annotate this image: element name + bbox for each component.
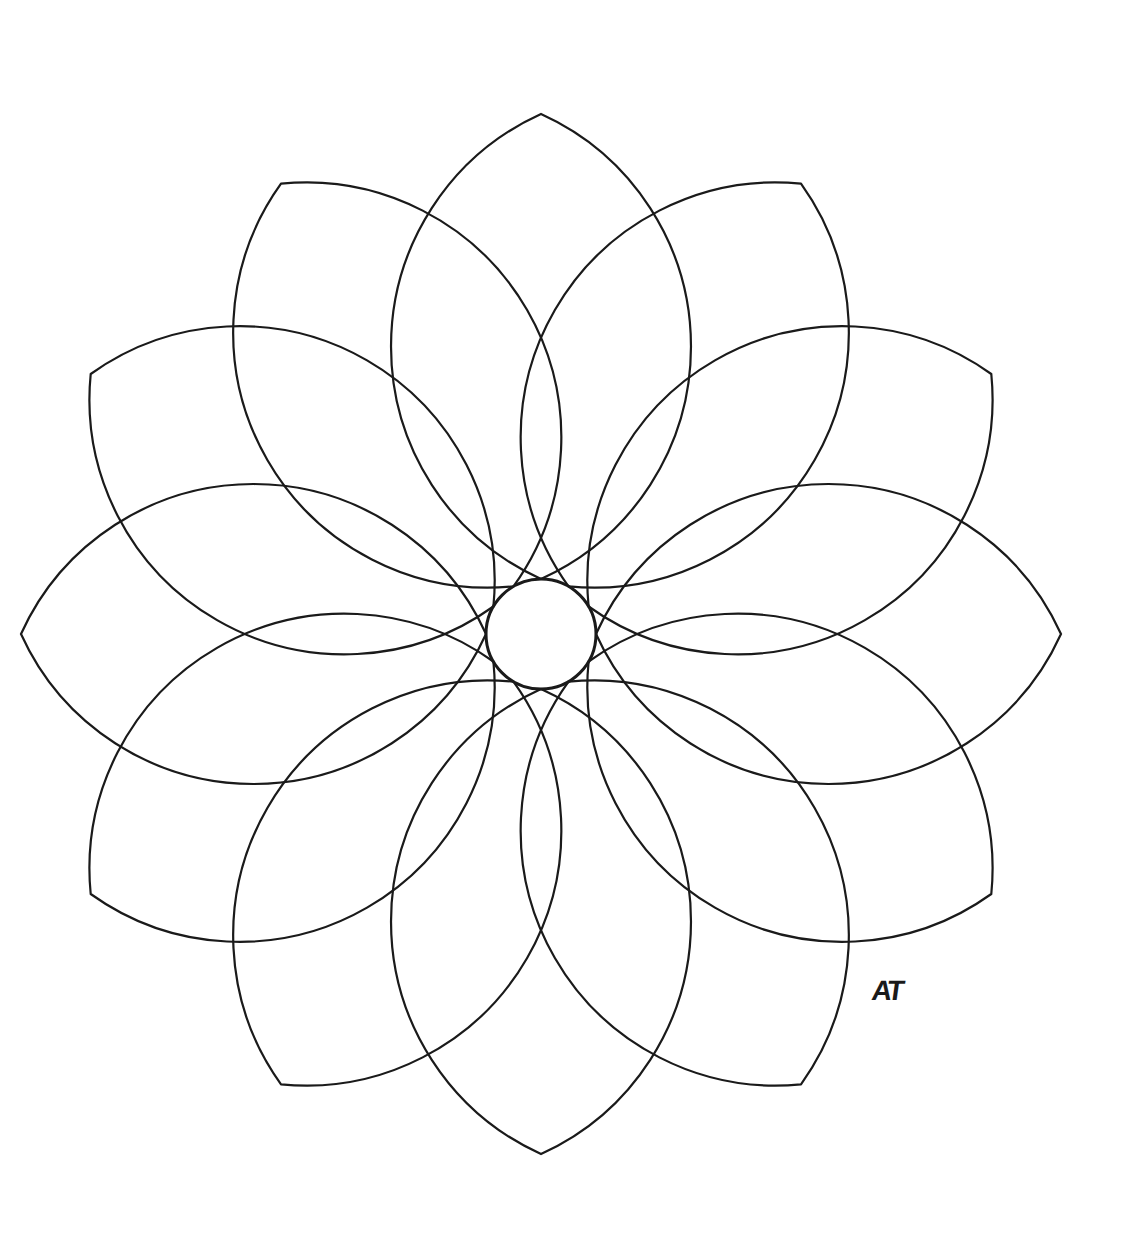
artist-signature: AT xyxy=(870,975,904,1007)
petal-arc xyxy=(587,614,992,942)
petal-arc xyxy=(21,484,486,784)
mandala-drawing xyxy=(0,0,1147,1240)
petal-arc xyxy=(391,114,691,579)
center-circle xyxy=(486,579,596,689)
petal-arc xyxy=(391,689,691,1154)
petal-arc xyxy=(596,484,1061,784)
petal-arc xyxy=(233,182,561,587)
petal-arc xyxy=(521,182,849,587)
petal-arc xyxy=(587,326,992,654)
petal-arc xyxy=(521,680,849,1085)
petal-arc xyxy=(89,326,494,654)
petal-arc xyxy=(233,680,561,1085)
petal-group xyxy=(21,114,1061,1154)
petal-arc xyxy=(89,614,494,942)
